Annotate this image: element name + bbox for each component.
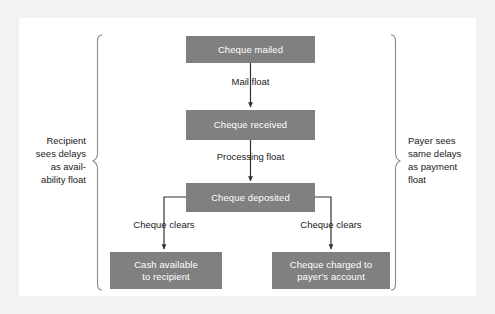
node-cash-available[interactable]: Cash available to recipient — [110, 252, 222, 289]
side-label-payer: Payer sees same delays as payment float — [408, 134, 480, 186]
node-cheque-charged-line1: Cheque charged to — [290, 259, 373, 271]
node-cheque-received[interactable]: Cheque received — [186, 110, 315, 140]
node-cheque-charged-line2: payer's account — [297, 271, 365, 283]
node-cheque-received-label: Cheque received — [214, 119, 287, 131]
edge-label-processing-float-text: Processing float — [217, 151, 285, 162]
right-brace — [391, 35, 400, 290]
left-brace — [93, 35, 102, 290]
figure-container: Cheque mailed Cheque received Cheque dep… — [0, 0, 495, 314]
edge-label-processing-float: Processing float — [176, 151, 325, 163]
node-cheque-charged[interactable]: Cheque charged to payer's account — [272, 252, 390, 289]
edge-label-mail-float: Mail float — [186, 76, 315, 88]
edge-label-cheque-clears-right: Cheque clears — [271, 219, 391, 231]
node-cash-available-line2: to recipient — [142, 271, 190, 283]
edge-label-mail-float-text: Mail float — [231, 76, 269, 87]
node-cheque-mailed[interactable]: Cheque mailed — [186, 36, 315, 63]
node-cash-available-line1: Cash available — [134, 259, 198, 271]
edge-label-cheque-clears-left: Cheque clears — [104, 219, 224, 231]
node-cheque-deposited[interactable]: Cheque deposited — [186, 183, 315, 212]
edge-label-cheque-clears-left-text: Cheque clears — [133, 219, 194, 230]
side-label-recipient: Recipient sees delays as avail- ability … — [18, 134, 86, 186]
node-cheque-deposited-label: Cheque deposited — [211, 192, 290, 204]
node-cheque-mailed-label: Cheque mailed — [218, 44, 283, 56]
edge-label-cheque-clears-right-text: Cheque clears — [300, 219, 361, 230]
